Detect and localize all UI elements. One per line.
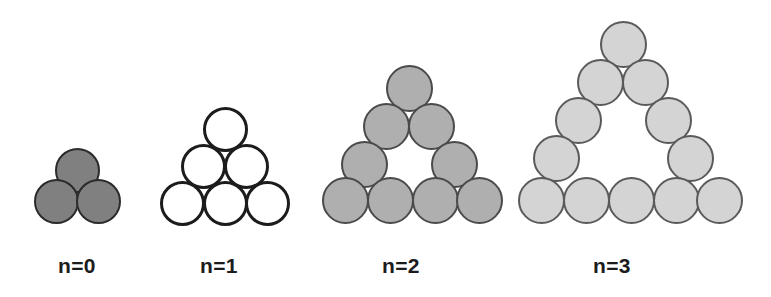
- circle: [696, 177, 743, 224]
- circle: [533, 135, 580, 182]
- group-label-n1: n=1: [200, 255, 238, 276]
- group-label-n2: n=2: [382, 255, 420, 276]
- circle: [322, 177, 369, 224]
- group-label-n0: n=0: [58, 255, 96, 276]
- circle: [412, 177, 459, 224]
- circle: [456, 177, 503, 224]
- circle-group-n2: [0, 0, 771, 297]
- circle: [563, 177, 610, 224]
- circle: [34, 179, 79, 224]
- circle: [245, 181, 290, 226]
- circle: [203, 181, 248, 226]
- circle: [367, 177, 414, 224]
- triangular-packing-figure: n=0n=1n=2n=3: [0, 0, 771, 297]
- group-label-n3: n=3: [593, 255, 631, 276]
- circle: [76, 179, 121, 224]
- circle: [160, 181, 205, 226]
- circle: [667, 135, 714, 182]
- circle: [653, 177, 700, 224]
- circle: [608, 177, 655, 224]
- circle: [518, 177, 565, 224]
